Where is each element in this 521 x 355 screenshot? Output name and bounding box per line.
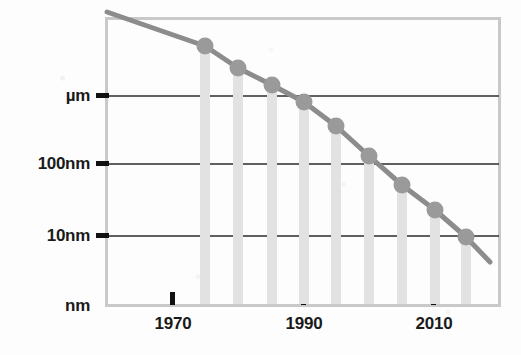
y-axis-label-um: µm	[6, 86, 90, 106]
data-bar	[364, 156, 374, 304]
data-bar	[299, 102, 309, 304]
data-bar	[430, 210, 440, 304]
y-axis-label-100nm: 100nm	[6, 154, 90, 174]
data-bars	[200, 46, 471, 304]
data-point	[427, 202, 444, 219]
x-tick-1970	[170, 292, 175, 305]
data-point	[361, 148, 378, 165]
data-point	[328, 118, 345, 135]
y-tick-10nm	[96, 233, 109, 238]
data-bar	[233, 68, 243, 304]
x-axis-label-1970: 1970	[143, 314, 203, 334]
data-point	[296, 94, 313, 111]
data-point	[230, 60, 247, 77]
data-bar	[267, 85, 277, 304]
y-axis-label-nm: nm	[6, 296, 90, 316]
data-point	[458, 229, 475, 246]
data-bar	[461, 237, 471, 304]
data-point	[394, 177, 411, 194]
data-bar	[331, 126, 341, 304]
data-bar	[200, 46, 210, 304]
data-bar	[397, 185, 407, 304]
x-axis-label-1990: 1990	[274, 314, 334, 334]
chart-figure: µm 100nm 10nm nm 1970 1990 2010	[0, 0, 521, 355]
data-point	[197, 38, 214, 55]
x-axis-label-2010: 2010	[404, 314, 464, 334]
y-axis-label-10nm: 10nm	[6, 226, 90, 246]
y-tick-um	[96, 93, 109, 98]
data-point	[264, 77, 281, 94]
y-tick-100nm	[96, 161, 109, 166]
